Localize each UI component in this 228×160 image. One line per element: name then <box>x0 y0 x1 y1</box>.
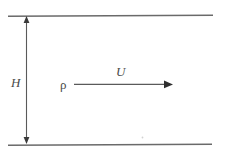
bottom-wall-line <box>8 144 212 145</box>
height-label: H <box>11 76 20 89</box>
channel-flow-diagram: H ρ U <box>0 0 228 160</box>
arrow-right-icon <box>164 81 173 89</box>
top-wall-line <box>8 15 213 16</box>
velocity-label: U <box>116 65 125 78</box>
diagram-canvas <box>0 0 228 160</box>
arrow-up-icon <box>24 16 30 23</box>
density-label: ρ <box>60 78 67 91</box>
scan-artifact-speck <box>142 137 144 139</box>
arrow-down-icon <box>24 137 30 144</box>
